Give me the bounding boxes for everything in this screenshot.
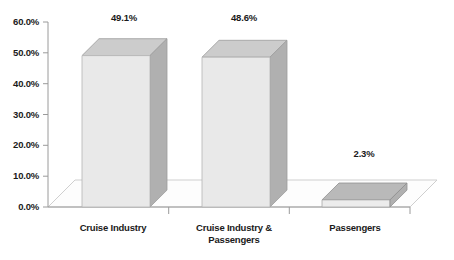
bar-cruise-industry-and-passengers[interactable]	[202, 40, 287, 207]
category-label-cruise-industry-and-passengers-line2: Passengers	[178, 234, 290, 246]
y-tick-label-40: 40.0%	[0, 78, 39, 89]
data-label-passengers: 2.3%	[334, 148, 394, 159]
bar-cruise-industry-front	[82, 56, 150, 207]
bar-cruise-industry[interactable]	[82, 39, 167, 207]
category-label-cruise-industry: Cruise Industry	[58, 222, 168, 234]
category-label-cruise-industry-and-passengers: Cruise Industry & Passengers	[178, 222, 290, 246]
y-tick-label-50: 50.0%	[0, 47, 39, 58]
data-label-cruise-industry-and-passengers: 48.6%	[214, 12, 274, 23]
category-label-passengers: Passengers	[300, 222, 410, 234]
y-tick-label-60: 60.0%	[0, 16, 39, 27]
chart-3d-column: 60.0% 50.0% 40.0% 30.0% 20.0% 10.0% 0.0%…	[0, 0, 454, 260]
category-label-passengers-line1: Passengers	[300, 222, 410, 234]
y-tick-label-10: 10.0%	[0, 170, 39, 181]
y-tick-label-0: 0.0%	[0, 201, 39, 212]
y-axis-ticks	[43, 22, 48, 207]
bar-cruise-industry-and-passengers-front	[202, 57, 270, 207]
data-label-cruise-industry: 49.1%	[94, 12, 154, 23]
category-label-cruise-industry-line1: Cruise Industry	[58, 222, 168, 234]
bar-cruise-industry-and-passengers-side	[270, 40, 287, 207]
chart-canvas	[0, 0, 454, 260]
y-tick-label-30: 30.0%	[0, 109, 39, 120]
x-axis-ticks	[169, 207, 410, 214]
bar-cruise-industry-side	[150, 39, 167, 207]
bar-passengers-front	[322, 200, 390, 207]
category-label-cruise-industry-and-passengers-line1: Cruise Industry &	[178, 222, 290, 234]
y-tick-label-20: 20.0%	[0, 139, 39, 150]
